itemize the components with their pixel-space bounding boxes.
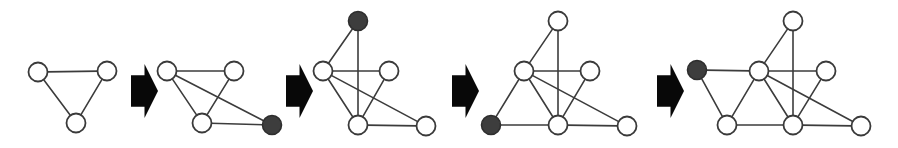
step-3-add-top-node-node-bottom-mid <box>349 116 368 135</box>
figure-canvas <box>0 0 898 148</box>
step-2-add-right-node-node-bottom <box>193 114 212 133</box>
step-3-add-top-node-node-mid-left <box>314 62 333 81</box>
step-4-add-left-node-node-bottom-mid <box>549 116 568 135</box>
step-2-add-right-node-node-new-filled <box>263 116 282 135</box>
step-4-add-left-node-node-top <box>549 12 568 31</box>
graph-sequence-figure <box>0 0 898 148</box>
step-3-add-top-node-node-mid-right <box>380 62 399 81</box>
step-5-add-far-left-node-node-mid-left <box>750 62 769 81</box>
graph-edge-c-d <box>366 125 417 126</box>
graph-edge-a-b <box>46 71 98 72</box>
step-5-add-far-left-node-node-bottom-right <box>852 117 871 136</box>
step-2-add-right-node-node-top-left <box>158 62 177 81</box>
step-1-triangle-node-top-left <box>29 63 48 82</box>
step-5-add-far-left-node-node-mid-right <box>817 62 836 81</box>
step-5-add-far-left-node-node-top <box>784 12 803 31</box>
step-3-add-top-node-node-bottom-right <box>417 117 436 136</box>
step-1-triangle-node-top-right <box>98 62 117 81</box>
graph-edge-c-d <box>801 125 852 126</box>
step-5-add-far-left-node-node-bottom-left <box>718 116 737 135</box>
graph-edge-c-d <box>566 125 618 126</box>
step-4-add-left-node-node-mid-left <box>515 62 534 81</box>
step-3-add-top-node-node-new-filled <box>349 12 368 31</box>
step-4-add-left-node-node-new-filled <box>482 116 501 135</box>
step-5-add-far-left-node-node-bottom-mid <box>784 116 803 135</box>
step-4-add-left-node-node-mid-right <box>581 62 600 81</box>
step-5-add-far-left-node-node-new-filled <box>688 61 707 80</box>
step-4-add-left-node-node-bottom-right <box>618 117 637 136</box>
graph-edge-g-a <box>705 70 750 71</box>
step-2-add-right-node-node-top-right <box>225 62 244 81</box>
step-1-triangle-node-bottom <box>67 114 86 133</box>
